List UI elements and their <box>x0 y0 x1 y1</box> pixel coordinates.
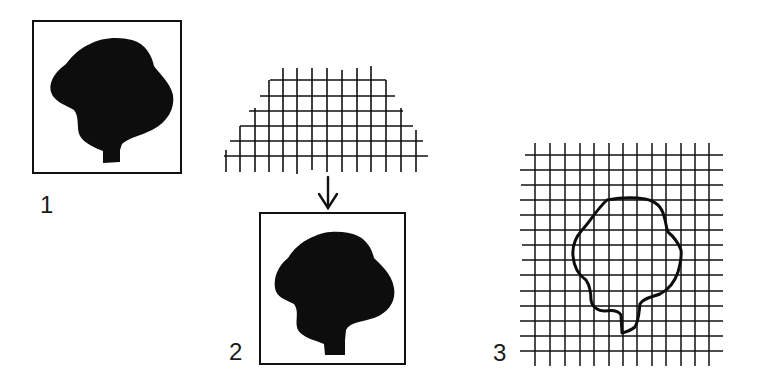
panel-3-label: 3 <box>493 341 506 365</box>
panel-2-label: 2 <box>229 340 242 364</box>
diagram-canvas <box>0 0 759 382</box>
panel-3-tree-outline <box>573 198 681 333</box>
panel-1-label: 1 <box>40 193 53 217</box>
panel-2-distorted-grid <box>224 66 428 174</box>
panel-1-tree-silhouette <box>50 38 173 163</box>
panel-2 <box>260 213 405 364</box>
panel-2-tree-silhouette <box>275 232 395 355</box>
panel-1 <box>33 21 181 173</box>
down-arrow-icon <box>319 177 337 208</box>
